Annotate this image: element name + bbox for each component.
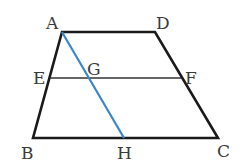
segment-ah (62, 32, 124, 138)
label-e: E (33, 68, 45, 88)
label-b: B (21, 143, 34, 163)
label-f: F (185, 68, 197, 88)
label-c: C (217, 141, 230, 161)
trapezoid-diagram: A D E G F B H C (0, 0, 246, 168)
label-h: H (117, 143, 132, 163)
label-a: A (45, 13, 59, 33)
label-g: G (87, 59, 101, 79)
label-d: D (156, 13, 170, 33)
